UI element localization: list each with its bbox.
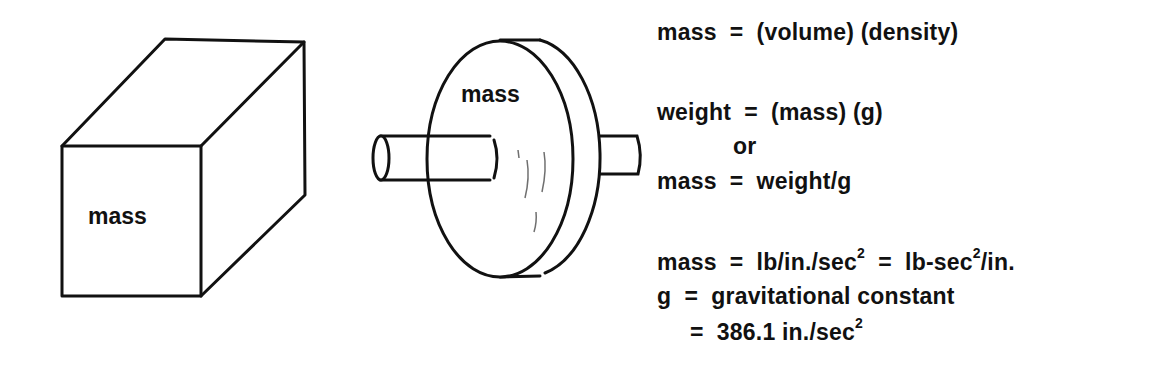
or-label: or [733,135,756,158]
equation-g-value: = 386.1 in./sec2 [690,321,863,344]
cube-drawing [62,39,305,296]
exponent: 2 [857,245,865,261]
equation-mass-units: mass = lb/in./sec2 = lb-sec2/in. [657,251,1015,274]
mass-units-part3: /in. [981,249,1015,275]
left-shaft-end [373,136,389,180]
equation-g-definition: g = gravitational constant [657,285,955,308]
equation-mass-volume-density: mass = (volume) (density) [657,21,958,44]
equation-weight-mass-g: weight = (mass) (g) [657,101,883,124]
cube-side-face [201,42,305,296]
equation-mass-weight-g: mass = weight/g [657,170,852,193]
g-value-text: = 386.1 in./sec [690,319,855,345]
exponent: 2 [973,245,981,261]
mass-diagram: mass mass [0,0,1170,378]
cube-top-face [62,39,304,146]
exponent: 2 [855,315,863,331]
cube-mass-label: mass [88,203,147,229]
right-shaft [600,136,640,174]
disk-mass-label: mass [461,81,520,107]
flywheel-drawing [373,40,640,277]
mass-units-part2: = lb-sec [865,249,973,275]
mass-units-part1: mass = lb/in./sec [657,249,857,275]
disk-front-face [427,41,573,277]
